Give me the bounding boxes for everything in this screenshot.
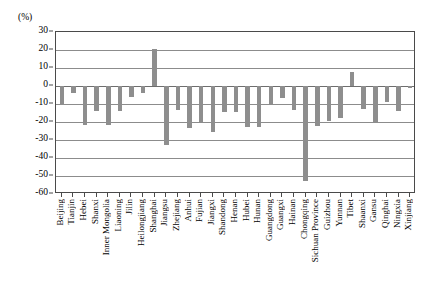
x-tick-mark (72, 193, 73, 197)
x-tick-label: Qinghai (381, 199, 390, 228)
bar (257, 86, 262, 127)
y-axis-unit-label: (%) (18, 12, 32, 22)
x-tick-label: Inner Mongolia (102, 199, 111, 255)
y-tick-label: -20 (35, 116, 48, 126)
x-tick-mark (363, 193, 364, 197)
x-tick-mark (386, 193, 387, 197)
x-tick-mark (200, 193, 201, 197)
x-tick-mark (189, 193, 190, 197)
bars-layer (56, 32, 414, 192)
x-tick-label: Hunan (253, 199, 262, 223)
bar (199, 86, 204, 122)
x-tick-mark (107, 193, 108, 197)
x-tick-label: Shandong (218, 199, 227, 235)
x-tick-mark (84, 193, 85, 197)
y-tick-label: -30 (35, 134, 48, 144)
x-tick-label: Guangdong (265, 199, 274, 241)
x-tick-label: Hebei (79, 199, 88, 221)
x-tick-mark (223, 193, 224, 197)
x-tick-label: Tianjin (67, 199, 76, 225)
x-tick-mark (293, 193, 294, 197)
bar (327, 86, 332, 121)
x-tick-label: Beijing (56, 199, 65, 226)
x-tick-mark (165, 193, 166, 197)
bar (71, 86, 76, 93)
x-tick-label: Liaoning (114, 199, 123, 232)
bar (350, 72, 355, 86)
bar (152, 49, 157, 86)
y-tick-mark (49, 67, 53, 68)
bar (245, 86, 250, 127)
x-tick-label: Guangxi (276, 199, 285, 230)
bar (269, 86, 274, 104)
x-tick-mark (235, 193, 236, 197)
x-tick-label: Heilongjiang (137, 199, 146, 246)
bar (315, 86, 320, 126)
y-tick-mark (49, 49, 53, 50)
x-tick-mark (340, 193, 341, 197)
bar (280, 86, 285, 98)
y-tick-mark (49, 103, 53, 104)
x-tick-mark (316, 193, 317, 197)
y-tick-label: -60 (35, 188, 48, 198)
bar (176, 86, 181, 110)
x-tick-mark (258, 193, 259, 197)
bar (361, 86, 366, 109)
x-tick-label: Yunnan (335, 199, 344, 227)
x-tick-label: Hainan (288, 199, 297, 225)
x-tick-mark (409, 193, 410, 197)
bar (118, 86, 123, 111)
x-tick-mark (212, 193, 213, 197)
x-tick-label: Tibet (346, 199, 355, 218)
x-tick-mark (119, 193, 120, 197)
bar (60, 86, 65, 105)
x-tick-label: Shanghai (149, 199, 158, 233)
x-tick-label: Gansu (369, 199, 378, 222)
x-tick-mark (328, 193, 329, 197)
x-tick-label: Guizhou (323, 199, 332, 230)
y-tick-label: -10 (35, 98, 48, 108)
y-tick-mark (49, 157, 53, 158)
y-axis-tick-labels: 3020100-10-20-30-40-50-60 (0, 31, 53, 193)
bar (129, 86, 134, 97)
x-tick-label: Ningxia (393, 199, 402, 228)
x-tick-mark (142, 193, 143, 197)
bar (396, 86, 401, 111)
bar (83, 86, 88, 125)
x-tick-label: Xinjiang (404, 199, 413, 231)
x-tick-mark (398, 193, 399, 197)
x-tick-label: Chongqing (300, 199, 309, 239)
x-tick-label: Jiangsu (160, 199, 169, 226)
y-tick-label: 30 (39, 26, 49, 36)
x-tick-mark (281, 193, 282, 197)
y-tick-mark (49, 121, 53, 122)
y-tick-label: 0 (43, 80, 48, 90)
x-tick-label: Jilin (125, 199, 134, 215)
bar (211, 86, 216, 132)
x-tick-mark (247, 193, 248, 197)
bar (385, 86, 390, 102)
bar (106, 86, 111, 125)
y-tick-label: 10 (39, 62, 49, 72)
x-tick-label: Fujian (195, 199, 204, 222)
x-tick-mark (270, 193, 271, 197)
x-tick-mark (374, 193, 375, 197)
bar (94, 86, 99, 111)
bar (164, 86, 169, 145)
y-tick-mark (49, 139, 53, 140)
plot-area (55, 31, 415, 193)
bar (222, 86, 227, 112)
x-tick-mark (61, 193, 62, 197)
y-tick-label: -50 (35, 170, 48, 180)
bar (408, 86, 413, 88)
x-tick-mark (305, 193, 306, 197)
bar (292, 86, 297, 110)
x-tick-mark (154, 193, 155, 197)
x-tick-label: Hubei (242, 199, 251, 221)
x-tick-label: Sichuan Province (311, 199, 320, 262)
y-tick-label: -40 (35, 152, 48, 162)
x-tick-mark (130, 193, 131, 197)
y-tick-mark (49, 175, 53, 176)
bar (187, 86, 192, 128)
bar (373, 86, 378, 122)
